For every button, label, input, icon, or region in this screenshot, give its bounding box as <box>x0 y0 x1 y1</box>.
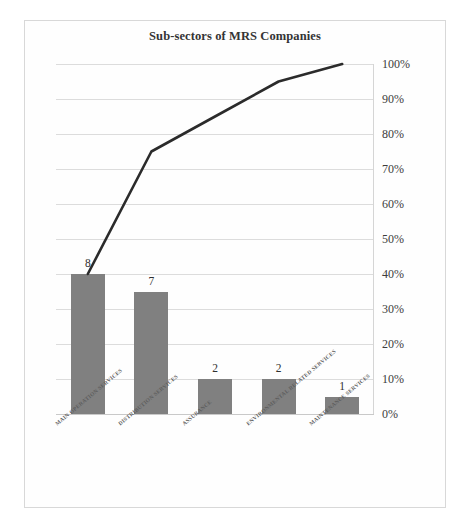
y-tick-label-40%: 40% <box>382 267 442 282</box>
bar-value-label-3: 2 <box>276 362 282 374</box>
gridline-100 <box>56 64 374 65</box>
bar-value-label-4: 1 <box>339 380 345 392</box>
right-axis-line <box>373 64 374 414</box>
y-tick-label-30%: 30% <box>382 302 442 317</box>
gridline-60 <box>56 204 374 205</box>
y-tick-label-100%: 100% <box>382 57 442 72</box>
chart-title: Sub-sectors of MRS Companies <box>25 29 445 44</box>
gridline-80 <box>56 134 374 135</box>
bar-value-label-1: 7 <box>149 275 155 287</box>
y-tick-label-10%: 10% <box>382 372 442 387</box>
y-tick-label-70%: 70% <box>382 162 442 177</box>
bar-value-label-0: 8 <box>85 257 91 269</box>
y-tick-label-90%: 90% <box>382 92 442 107</box>
gridline-50 <box>56 239 374 240</box>
bar-value-label-2: 2 <box>212 362 218 374</box>
y-tick-label-60%: 60% <box>382 197 442 212</box>
chart-frame: Sub-sectors of MRS Companies 0%10%20%30%… <box>24 20 446 508</box>
gridline-90 <box>56 99 374 100</box>
y-tick-label-80%: 80% <box>382 127 442 142</box>
gridline-70 <box>56 169 374 170</box>
y-tick-label-50%: 50% <box>382 232 442 247</box>
y-tick-label-0%: 0% <box>382 407 442 422</box>
y-tick-label-20%: 20% <box>382 337 442 352</box>
